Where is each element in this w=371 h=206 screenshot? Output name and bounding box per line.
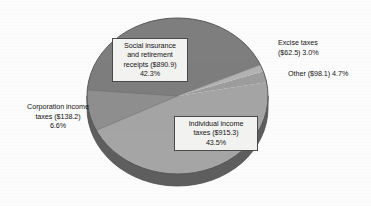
- slice-label-individual-income: Individual income taxes ($915.3) 43.5%: [174, 116, 258, 151]
- slice-label-other: Other ($98.1) 4.7%: [288, 69, 370, 79]
- slice-label-line: and retirement: [116, 50, 184, 59]
- pie-chart: Social insurance and retirement receipts…: [0, 0, 371, 206]
- slice-label-line: receipts ($890.9): [116, 60, 184, 69]
- slice-label-line: 6.6%: [14, 121, 102, 131]
- slice-label-social-insurance: Social insurance and retirement receipts…: [112, 38, 188, 82]
- slice-label-line: 43.5%: [178, 138, 254, 147]
- slice-label-line: Excise taxes: [278, 38, 368, 48]
- page-background: Social insurance and retirement receipts…: [0, 0, 371, 206]
- slice-label-line: Corporation income: [14, 102, 102, 112]
- slice-label-line: Individual income: [178, 119, 254, 128]
- slice-label-line: taxes ($138.2): [14, 112, 102, 122]
- slice-label-excise-taxes: Excise taxes ($62.5) 3.0%: [278, 38, 368, 57]
- slice-label-line: taxes ($915.3): [178, 128, 254, 137]
- slice-label-line: Social insurance: [116, 41, 184, 50]
- slice-label-line: ($62.5) 3.0%: [278, 48, 368, 58]
- slice-label-corporation-income: Corporation income taxes ($138.2) 6.6%: [14, 102, 102, 131]
- slice-label-line: Other ($98.1) 4.7%: [288, 69, 370, 79]
- slice-label-line: 42.3%: [116, 69, 184, 78]
